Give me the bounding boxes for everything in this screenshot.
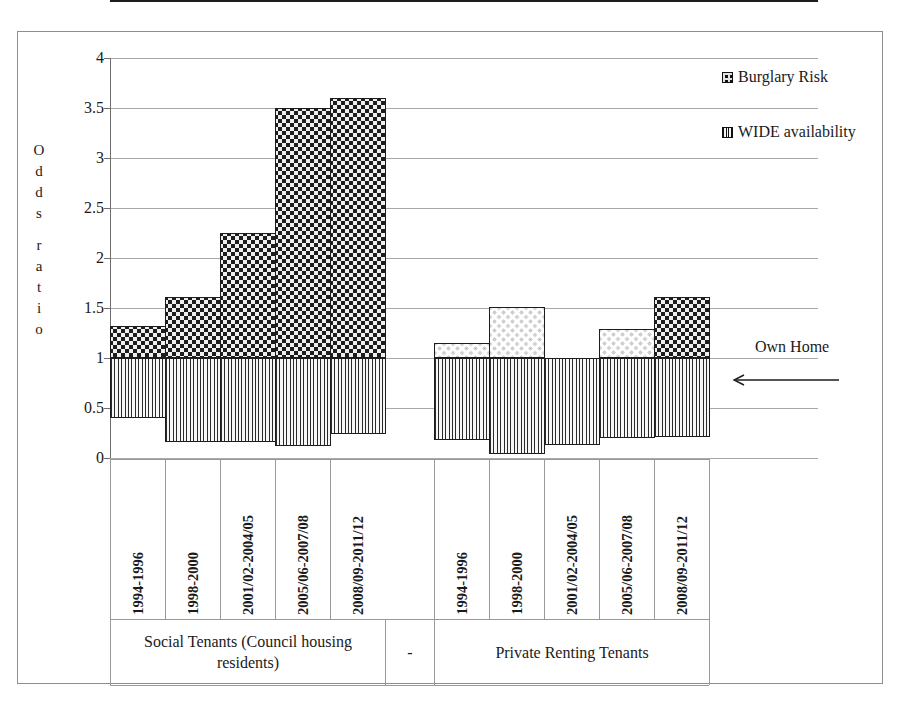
y-axis-title-letter: i bbox=[29, 298, 49, 319]
own-home-arrow-icon bbox=[726, 372, 840, 384]
bar bbox=[165, 358, 221, 442]
y-axis-title-letter: O bbox=[29, 140, 49, 161]
reference-line-odds-ratio-1 bbox=[110, 0, 818, 2]
category-label: 2001/02-2004/05 bbox=[563, 515, 581, 615]
y-axis-title-letter: d bbox=[29, 182, 49, 203]
y-axis-title-letter: t bbox=[29, 277, 49, 298]
category-label-cell: 2008/09-2011/12 bbox=[330, 459, 385, 619]
plot-area bbox=[110, 58, 709, 458]
group-label-private-renting: Private Renting Tenants bbox=[434, 619, 709, 685]
legend-item-burglary-risk: Burglary Risk bbox=[722, 68, 828, 86]
y-axis-tick-label: 3.5 bbox=[60, 100, 104, 116]
category-label: 2005/06-2007/08 bbox=[294, 515, 312, 615]
y-axis-title-space bbox=[29, 224, 49, 235]
bar bbox=[599, 329, 655, 358]
bar bbox=[110, 326, 166, 358]
category-label-cell: 2005/06-2007/08 bbox=[599, 459, 654, 619]
y-axis-tick-label: 3 bbox=[60, 150, 104, 166]
category-label-cell: 2001/02-2004/05 bbox=[220, 459, 275, 619]
bar bbox=[275, 358, 331, 446]
group-label-separator: - bbox=[385, 619, 434, 685]
chart-figure: O d d s r a t i o 00.511.522.533.54 1994… bbox=[0, 0, 912, 702]
category-label-cell: 1994-1996 bbox=[434, 459, 489, 619]
bar bbox=[165, 297, 221, 358]
y-axis-title-letter: r bbox=[29, 235, 49, 256]
bar bbox=[110, 358, 166, 418]
category-label: 2008/09-2011/12 bbox=[673, 516, 691, 615]
bar bbox=[220, 233, 276, 358]
y-axis-tick-label: 2.5 bbox=[60, 200, 104, 216]
y-axis-title: O d d s r a t i o bbox=[29, 140, 49, 340]
y-axis-tick-label: 4 bbox=[60, 50, 104, 66]
category-label-cell: 2001/02-2004/05 bbox=[544, 459, 599, 619]
category-label: 1994-1996 bbox=[453, 552, 471, 615]
legend-label: WIDE availability bbox=[738, 123, 856, 141]
category-label: 2005/06-2007/08 bbox=[618, 515, 636, 615]
category-label-cell: 1994-1996 bbox=[110, 459, 165, 619]
bar bbox=[275, 108, 331, 358]
legend-label: Burglary Risk bbox=[738, 68, 828, 86]
category-label-cell: 2005/06-2007/08 bbox=[275, 459, 330, 619]
bar bbox=[599, 358, 655, 438]
table-vertical-rule bbox=[709, 459, 710, 685]
y-axis-tick-label: 1.5 bbox=[60, 300, 104, 316]
category-label-table: 1994-19961998-20002001/02-2004/052005/06… bbox=[110, 459, 709, 685]
category-label-cell: 2008/09-2011/12 bbox=[654, 459, 709, 619]
bar bbox=[654, 297, 710, 358]
bar bbox=[220, 358, 276, 442]
vertical-lines-swatch-icon bbox=[722, 127, 733, 138]
category-label: 1998-2000 bbox=[184, 552, 202, 615]
bar bbox=[330, 358, 386, 434]
y-axis-tick-labels: 00.511.522.533.54 bbox=[58, 0, 104, 702]
y-axis-tick-label: 2 bbox=[60, 250, 104, 266]
y-axis-tick-label: 0 bbox=[60, 450, 104, 466]
category-label: 1994-1996 bbox=[129, 552, 147, 615]
bar bbox=[544, 358, 600, 445]
y-axis-title-letter: o bbox=[29, 319, 49, 340]
group-label-social-tenants: Social Tenants (Council housing resident… bbox=[110, 619, 385, 685]
bar bbox=[434, 358, 490, 440]
bar bbox=[489, 307, 545, 358]
category-label: 1998-2000 bbox=[508, 552, 526, 615]
own-home-annotation-label: Own Home bbox=[755, 338, 829, 356]
legend-item-wide-availability: WIDE availability bbox=[722, 123, 856, 141]
category-label: 2008/09-2011/12 bbox=[349, 516, 367, 615]
y-axis-tick-label: 1 bbox=[60, 350, 104, 366]
dots-swatch-icon bbox=[722, 72, 733, 83]
category-label-cell: 1998-2000 bbox=[165, 459, 220, 619]
bar bbox=[654, 358, 710, 437]
category-label-cell: 1998-2000 bbox=[489, 459, 544, 619]
bar bbox=[434, 343, 490, 358]
y-axis-tick-label: 0.5 bbox=[60, 400, 104, 416]
y-axis-title-letter: s bbox=[29, 203, 49, 224]
y-axis-title-letter: a bbox=[29, 256, 49, 277]
bar bbox=[489, 358, 545, 454]
category-label: 2001/02-2004/05 bbox=[239, 515, 257, 615]
bar bbox=[330, 98, 386, 358]
table-rule-bottom bbox=[110, 685, 709, 686]
y-axis-title-letter: d bbox=[29, 161, 49, 182]
